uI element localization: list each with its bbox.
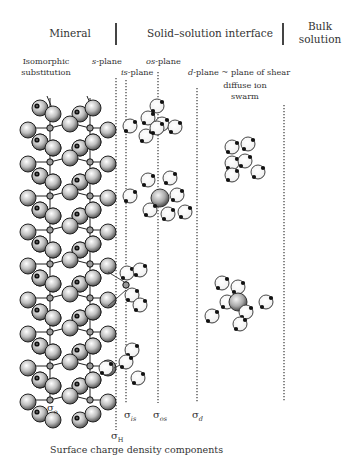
inner-sphere-complex-2 xyxy=(99,343,145,385)
sigma-is-sub: is xyxy=(131,415,136,423)
sigma-is-label: σis xyxy=(124,409,136,423)
sigma-os-sub: os xyxy=(160,415,167,423)
diffuse-cluster-2 xyxy=(205,276,273,331)
sigma-d-label: σd xyxy=(192,409,203,423)
diffuse-cluster-1 xyxy=(225,137,265,182)
mineral-lattice xyxy=(20,96,116,428)
sigma-symbol: σ xyxy=(192,409,199,420)
sigma-symbol: σ xyxy=(153,409,160,420)
sigma-d-sub: d xyxy=(199,415,203,423)
outer-sphere-cluster-1 xyxy=(123,99,182,143)
sigma-o-label: σo xyxy=(47,402,58,416)
sigma-symbol: σ xyxy=(111,430,118,441)
sigma-symbol: σ xyxy=(124,409,131,420)
sigma-H-sub: H xyxy=(118,436,124,444)
sigma-H-label: σH xyxy=(111,430,124,444)
sigma-symbol: σ xyxy=(47,402,54,413)
sigma-o-sub: o xyxy=(54,408,58,416)
edl-diagram xyxy=(0,0,354,465)
caption: Surface charge density components xyxy=(50,444,210,455)
sigma-os-label: σos xyxy=(153,409,167,423)
